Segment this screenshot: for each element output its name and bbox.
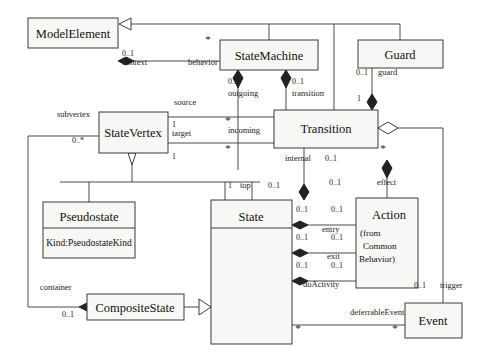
multiplicity-internal-left: * [225, 142, 231, 154]
class-statemachine[interactable]: StateMachine [220, 40, 318, 70]
composition-diamond-internal [299, 184, 309, 200]
role-label-trigger: trigger [440, 280, 463, 290]
role-label-exit: exit [327, 251, 340, 261]
class-subtitle-action-line3: Behavior) [359, 254, 395, 264]
role-label-outgoing: outgoing [228, 88, 259, 98]
class-name-transition: Transition [301, 122, 353, 136]
class-name-modelelement: ModelElement [36, 27, 111, 41]
multiplicity-doactivity-right: 0..1 [331, 261, 343, 270]
composition-diamond-guard [367, 94, 377, 110]
multiplicity-trigger-star: * [380, 142, 386, 154]
multiplicity-transition: 0..1 [292, 77, 304, 86]
multiplicity-guard-upper: 0..1 [356, 68, 368, 77]
multiplicity-statevertex-bot: 1 [172, 152, 176, 161]
role-label-container: container [40, 282, 72, 292]
role-label-doactivity: doActivity [303, 279, 340, 289]
multiplicity-deferrable-state: * [295, 322, 301, 334]
multiplicity-entry-left: 0..1 [296, 205, 308, 214]
class-name-guard: Guard [384, 48, 416, 62]
class-event[interactable]: Event [405, 303, 462, 338]
class-compositestate[interactable]: CompositeState [87, 294, 184, 320]
class-name-state: State [239, 210, 264, 224]
uml-diagram-canvas: ModelElement StateMachine Guard StateVer… [0, 0, 490, 363]
role-label-transition: transition [292, 88, 325, 98]
role-label-source: source [174, 97, 196, 107]
aggregation-diamond-trigger [378, 122, 398, 134]
class-modelelement[interactable]: ModelElement [28, 18, 118, 48]
class-subtitle-action-line2: Common [363, 241, 397, 251]
class-subtitle-action-line1: (from [360, 228, 381, 238]
multiplicity-trigger: 0..1 [414, 281, 426, 290]
multiplicity-source-target: 1 [172, 120, 176, 129]
class-pseudostate[interactable]: Pseudostate Kind:PseudostateKind [43, 202, 135, 258]
composition-diamond-effect [382, 160, 392, 178]
role-label-context: context [122, 57, 148, 67]
multiplicity-container: 0..1 [62, 310, 74, 319]
uml-diagram-svg: ModelElement StateMachine Guard StateVer… [0, 0, 490, 363]
generalization-triangle-statevertex [128, 153, 136, 165]
multiplicity-doactivity-left: 0..1 [296, 261, 308, 270]
role-label-top: top [240, 180, 251, 190]
role-label-incoming: incoming [228, 125, 261, 135]
class-name-statemachine: StateMachine [235, 49, 304, 63]
multiplicity-internal: 0..1 [325, 154, 337, 163]
generalization-statemachine-to-modelelement [131, 24, 269, 40]
class-attribute-pseudostate-kind: Kind:PseudostateKind [46, 238, 132, 248]
role-label-internal: internal [285, 153, 312, 163]
multiplicity-exit-left: 0..1 [296, 233, 308, 242]
generalization-triangle-modelelement [119, 18, 131, 30]
multiplicity-guard-lower: 1 [357, 94, 361, 103]
multiplicity-behavior: * [205, 33, 211, 45]
multiplicity-outgoing: 0..1 [228, 77, 240, 86]
multiplicity-top-right: 0..1 [268, 181, 280, 190]
generalization-triangle-state [199, 299, 211, 315]
class-statevertex[interactable]: StateVertex [99, 112, 168, 153]
role-label-behavior: behavior [188, 57, 218, 67]
composition-diamond-entry [292, 221, 308, 229]
class-action[interactable]: Action (from Common Behavior) [356, 198, 418, 288]
multiplicity-entry-right: 0..1 [331, 205, 343, 214]
multiplicity-incoming: * [225, 114, 231, 126]
class-name-pseudostate: Pseudostate [59, 210, 118, 224]
class-name-event: Event [418, 314, 448, 328]
multiplicity-effect: 0..1 [329, 178, 341, 187]
class-name-action: Action [372, 208, 407, 222]
class-transition[interactable]: Transition [274, 110, 378, 148]
multiplicity-exit-right: 0..1 [331, 233, 343, 242]
class-state[interactable]: State [211, 200, 292, 344]
composition-diamond-exit [292, 249, 308, 257]
class-name-compositestate: CompositeState [95, 301, 175, 315]
multiplicity-modelelement-gen: 0..1 [122, 49, 134, 58]
role-label-target: target [172, 128, 192, 138]
class-name-statevertex: StateVertex [104, 126, 162, 140]
multiplicity-deferrable-event: * [392, 322, 398, 334]
class-guard[interactable]: Guard [358, 40, 443, 68]
multiplicity-top-left: 1 [228, 181, 232, 190]
role-label-guard: guard [378, 67, 398, 77]
role-label-deferrableevent: deferrableEvent [350, 307, 405, 317]
role-label-effect: effect [377, 177, 397, 187]
multiplicity-subvertex: 0..* [72, 136, 84, 145]
composition-diamond-transition [281, 70, 291, 88]
role-label-subvertex: subvertex [57, 109, 91, 119]
